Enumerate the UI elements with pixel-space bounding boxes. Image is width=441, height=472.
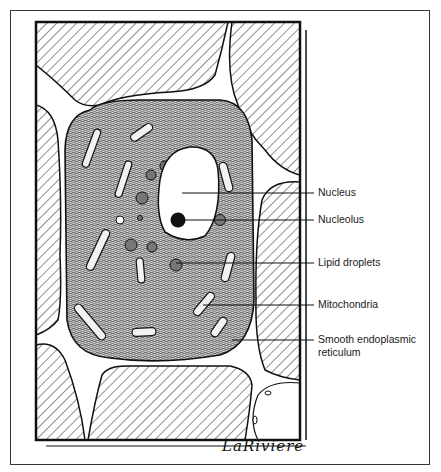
label-mitochondria: Mitochondria [318,298,378,311]
neighbor-cell-right [256,182,300,380]
cell-diagram [0,0,441,472]
artist-signature: LaRiviere [222,437,304,455]
label-lipid-droplets: Lipid droplets [318,256,380,269]
neighbor-cell-bottom [88,366,252,440]
vacuole [116,216,124,224]
label-ser-line2: reticulum [318,346,361,359]
neighbor-cell-left [36,105,61,335]
label-nucleus: Nucleus [318,186,356,199]
label-nucleolus: Nucleolus [318,213,364,226]
nucleolus [171,213,186,228]
label-ser-line1: Smooth endoplasmic [318,333,416,346]
